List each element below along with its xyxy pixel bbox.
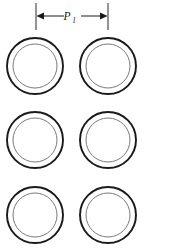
inner-ring [13,193,57,237]
circle-element-r3-c1 [7,187,63,243]
outer-ring [7,38,63,94]
arrowhead-left-icon [37,13,45,20]
inner-ring [13,44,57,88]
circle-element-r2-c2 [80,112,136,168]
inner-ring [13,118,57,162]
outer-ring [7,187,63,243]
outer-ring [7,112,63,168]
circle-element-r3-c2 [80,187,136,243]
outer-ring [80,187,136,243]
arrowhead-right-icon [100,13,108,20]
array-row-2 [7,112,136,168]
inner-ring [86,193,130,237]
array-row-3 [7,187,136,243]
outer-ring [80,38,136,94]
circle-element-r2-c1 [7,112,63,168]
dimension-label-subscript: 1 [72,16,76,25]
inner-ring [86,44,130,88]
circle-element-r1-c2 [80,38,136,94]
inner-ring [86,118,130,162]
outer-ring [80,112,136,168]
technical-drawing-figure: P 1 [0,0,173,251]
circle-element-r1-c1 [7,38,63,94]
array-row-1 [7,38,136,94]
drawing-canvas: P 1 [0,0,173,251]
dimension-label-symbol: P [62,10,70,22]
